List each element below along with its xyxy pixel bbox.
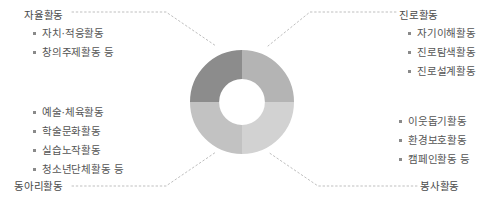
- bullet-icon: [399, 139, 402, 142]
- donut-segment-career: [242, 65, 279, 102]
- list-item-label: 환경보호활동: [408, 134, 467, 146]
- list-item: 진로탐색활동: [408, 43, 476, 62]
- bullet-icon: [33, 51, 36, 54]
- list-item-label: 예술·체육활동: [42, 106, 104, 118]
- bullet-icon: [408, 32, 411, 35]
- bullet-icon: [408, 70, 411, 73]
- donut-segment-autonomy: [205, 65, 242, 102]
- list-item: 자치·적응활동: [33, 24, 114, 43]
- list-item: 학술문화활동: [33, 122, 124, 141]
- list-item: 청소년단체활동 등: [33, 160, 124, 179]
- group-items-career: 자기이해활동 진로탐색활동 진로설계활동: [408, 24, 476, 81]
- donut-chart: [190, 17, 294, 187]
- group-items-club: 예술·체육활동 학술문화활동 실습노작활동 청소년단체활동 등: [33, 103, 124, 179]
- group-items-autonomy: 자치·적응활동 창의주제활동 등: [33, 24, 114, 62]
- group-heading-club: 동아리활동: [14, 178, 63, 193]
- diagram-canvas: 자율활동 자치·적응활동 창의주제활동 등 진로활동 자기이해활동 진로탐색활동…: [0, 0, 483, 201]
- bullet-icon: [408, 51, 411, 54]
- list-item-label: 창의주제활동 등: [42, 46, 114, 58]
- list-item: 환경보호활동: [399, 131, 470, 150]
- bullet-icon: [399, 158, 402, 161]
- list-item-label: 학술문화활동: [42, 125, 101, 137]
- bullet-icon: [399, 120, 402, 123]
- list-item: 자기이해활동: [408, 24, 476, 43]
- bullet-icon: [33, 168, 36, 171]
- list-item-label: 자기이해활동: [417, 27, 476, 39]
- group-items-service: 이웃돕기활동 환경보호활동 캠페인활동 등: [399, 112, 470, 169]
- bullet-icon: [33, 32, 36, 35]
- list-item-label: 진로탐색활동: [417, 46, 476, 58]
- list-item-label: 청소년단체활동 등: [42, 163, 124, 175]
- list-item-label: 진로설계활동: [417, 65, 476, 77]
- list-item: 이웃돕기활동: [399, 112, 470, 131]
- group-heading-autonomy: 자율활동: [24, 7, 63, 22]
- group-heading-career: 진로활동: [399, 7, 438, 22]
- list-item-label: 실습노작활동: [42, 144, 101, 156]
- list-item: 예술·체육활동: [33, 103, 124, 122]
- bullet-icon: [33, 149, 36, 152]
- list-item: 실습노작활동: [33, 141, 124, 160]
- list-item-label: 이웃돕기활동: [408, 115, 467, 127]
- donut-segment-club: [205, 102, 242, 139]
- bullet-icon: [33, 130, 36, 133]
- list-item-label: 자치·적응활동: [42, 27, 104, 39]
- list-item: 진로설계활동: [408, 62, 476, 81]
- list-item-label: 캠페인활동 등: [408, 153, 470, 165]
- group-heading-service: 봉사활동: [420, 178, 459, 193]
- donut-segment-service: [242, 102, 279, 139]
- list-item: 캠페인활동 등: [399, 150, 470, 169]
- list-item: 창의주제활동 등: [33, 43, 114, 62]
- bullet-icon: [33, 111, 36, 114]
